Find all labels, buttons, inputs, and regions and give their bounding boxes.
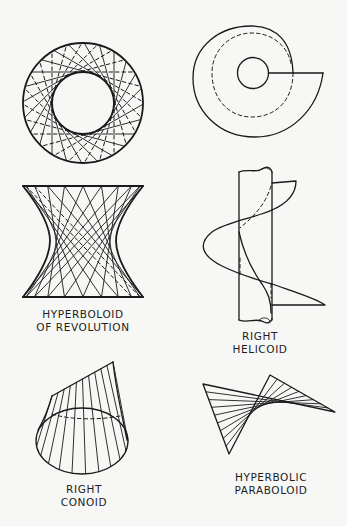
paraboloid-label-line-1: HYPERBOLIC	[234, 471, 307, 484]
hyperboloid-label-line-1: HYPERBOLOID	[36, 308, 129, 321]
paraboloid-label-line-2: PARABOLOID	[234, 484, 307, 497]
helicoid-side-view	[203, 167, 325, 323]
conoid-label-line-1: RIGHT	[61, 483, 108, 496]
right-conoid	[36, 362, 128, 474]
ruled-surfaces-diagram: HYPERBOLOID OF REVOLUTION RIGHT HELICOID…	[0, 0, 347, 526]
helicoid-label-line-1: RIGHT	[232, 330, 287, 343]
helicoid-label: RIGHT HELICOID	[232, 330, 287, 356]
hyperboloid-label-line-2: OF REVOLUTION	[36, 321, 129, 334]
conoid-label-line-2: CONOID	[61, 496, 108, 509]
paraboloid-label: HYPERBOLIC PARABOLOID	[234, 471, 307, 497]
figures-canvas	[0, 0, 347, 526]
hyperboloid-side-view	[23, 186, 143, 297]
hyperbolic-paraboloid	[203, 375, 335, 454]
helicoid-top-view	[193, 26, 323, 137]
hyperboloid-top-view	[23, 43, 143, 163]
conoid-label: RIGHT CONOID	[61, 483, 108, 509]
helicoid-label-line-2: HELICOID	[232, 343, 287, 356]
hyperboloid-label: HYPERBOLOID OF REVOLUTION	[36, 308, 129, 334]
